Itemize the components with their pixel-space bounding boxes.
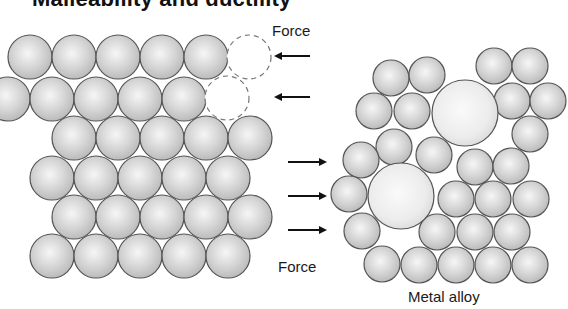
alloy-small-atom bbox=[356, 93, 392, 129]
alloy-small-atom bbox=[364, 246, 400, 282]
metal-atom bbox=[184, 116, 228, 160]
alloy-small-atom bbox=[331, 176, 367, 212]
alloy-small-atom bbox=[438, 181, 474, 217]
alloy-small-atom bbox=[394, 93, 430, 129]
metal-atom bbox=[184, 195, 228, 239]
metal-alloy-label: Metal alloy bbox=[408, 288, 480, 305]
metal-atom bbox=[52, 35, 96, 79]
metal-atom bbox=[30, 234, 74, 278]
alloy-small-atom bbox=[512, 116, 548, 152]
force-arrows bbox=[276, 56, 325, 230]
metal-atom bbox=[96, 116, 140, 160]
displaced-atom-outline bbox=[227, 35, 271, 79]
metal-atom bbox=[52, 116, 96, 160]
displaced-atom-outline bbox=[205, 76, 249, 120]
alloy-small-atom bbox=[530, 83, 566, 119]
alloy-small-atom bbox=[476, 48, 512, 84]
metal-atom bbox=[184, 35, 228, 79]
metal-atom bbox=[140, 195, 184, 239]
metal-atom bbox=[140, 35, 184, 79]
alloy-small-atom bbox=[494, 214, 530, 250]
metal-atom bbox=[52, 195, 96, 239]
alloy-small-atom bbox=[409, 57, 445, 93]
metal-atom bbox=[74, 77, 118, 121]
alloy-small-atom bbox=[343, 142, 379, 178]
alloy-small-atom bbox=[401, 247, 437, 283]
pure-metal-lattice bbox=[0, 35, 272, 278]
alloy-small-atom bbox=[513, 181, 549, 217]
alloy-small-atom bbox=[457, 149, 493, 185]
metal-atom bbox=[74, 156, 118, 200]
metal-alloy-lattice bbox=[331, 48, 566, 283]
metal-atom bbox=[228, 116, 272, 160]
metal-atom bbox=[74, 234, 118, 278]
alloy-small-atom bbox=[475, 181, 511, 217]
metal-atom bbox=[162, 77, 206, 121]
metal-atom bbox=[162, 234, 206, 278]
metal-atom bbox=[96, 195, 140, 239]
force-label-top: Force bbox=[272, 22, 310, 39]
alloy-small-atom bbox=[376, 129, 412, 165]
metal-atom bbox=[96, 35, 140, 79]
metal-atom bbox=[162, 156, 206, 200]
alloy-small-atom bbox=[475, 247, 511, 283]
alloy-small-atom bbox=[512, 247, 548, 283]
metal-atom bbox=[30, 77, 74, 121]
metal-atom bbox=[228, 195, 272, 239]
metal-atom bbox=[206, 234, 250, 278]
metal-atom bbox=[0, 77, 30, 121]
alloy-small-atom bbox=[373, 60, 409, 96]
metal-atom bbox=[118, 77, 162, 121]
alloy-small-atom bbox=[457, 214, 493, 250]
metal-atom bbox=[30, 156, 74, 200]
alloy-small-atom bbox=[512, 48, 548, 84]
alloy-small-atom bbox=[344, 213, 380, 249]
metal-atom bbox=[118, 234, 162, 278]
metal-atom bbox=[140, 116, 184, 160]
force-label-bottom: Force bbox=[278, 258, 316, 275]
alloy-small-atom bbox=[438, 247, 474, 283]
alloy-small-atom bbox=[416, 137, 452, 173]
metal-atom bbox=[206, 156, 250, 200]
metal-atom bbox=[8, 35, 52, 79]
alloy-small-atom bbox=[494, 83, 530, 119]
alloy-large-atom bbox=[368, 163, 434, 229]
metal-atom bbox=[118, 156, 162, 200]
alloy-small-atom bbox=[493, 148, 529, 184]
alloy-large-atom bbox=[432, 80, 498, 146]
